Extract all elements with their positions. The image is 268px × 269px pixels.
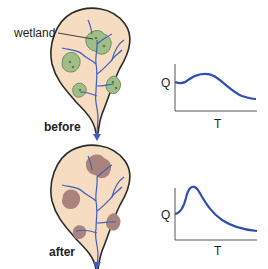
after-label: after: [49, 245, 75, 259]
before-hydrograph-curve: [175, 74, 256, 99]
before-label: before: [44, 120, 81, 134]
wetland-label: wetland: [13, 26, 55, 40]
before-outflow-arrow: [93, 134, 101, 141]
before-t-label: T: [214, 117, 222, 131]
after-q-label: Q: [161, 208, 170, 222]
before-basin: wetland before: [13, 8, 130, 141]
after-outflow-arrow: [93, 262, 101, 269]
after-basin: after: [49, 145, 130, 269]
wetland-hydrograph-diagram: wetland before after Q T: [0, 0, 268, 269]
before-q-label: Q: [161, 76, 170, 90]
before-hydrograph: Q T: [161, 64, 257, 131]
after-hydrograph-curve: [175, 187, 257, 231]
after-t-label: T: [214, 244, 222, 258]
after-hydrograph: Q T: [161, 187, 257, 258]
